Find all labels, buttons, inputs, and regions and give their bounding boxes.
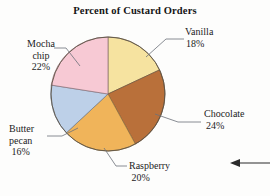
custard-orders-pie-figure: Percent of Custard Orders Vanilla 18% Ch… xyxy=(0,0,270,196)
pie-label-vanilla-percent: 18% xyxy=(185,38,213,50)
pie-label-raspberry-percent: 20% xyxy=(129,172,170,184)
leader-line-chocolate xyxy=(155,114,201,122)
pie-label-mocha-chip-name-line1: Mocha xyxy=(27,38,55,49)
pie-label-vanilla: Vanilla 18% xyxy=(185,26,213,49)
leader-line-vanilla xyxy=(146,39,184,57)
pie-label-mocha-chip-percent: 22% xyxy=(17,61,65,73)
pie-label-butter-pecan-name-line2: pecan xyxy=(9,135,44,147)
pie-label-chocolate-name: Chocolate xyxy=(204,108,245,119)
pie-label-butter-pecan: Butter pecan 16% xyxy=(9,123,44,158)
pie-label-raspberry: Raspberry 20% xyxy=(129,160,170,183)
pie-label-butter-pecan-percent: 16% xyxy=(9,146,44,158)
pie-label-mocha-chip: Mocha chip 22% xyxy=(17,38,65,73)
pie-label-vanilla-name: Vanilla xyxy=(185,26,213,37)
pie-label-butter-pecan-name-line1: Butter xyxy=(9,123,34,134)
left-pointing-arrow xyxy=(230,159,270,167)
pie-label-chocolate-percent: 24% xyxy=(204,120,245,132)
pie-label-raspberry-name: Raspberry xyxy=(129,160,170,171)
pie-label-mocha-chip-name-line2: chip xyxy=(17,50,65,62)
pie-label-chocolate: Chocolate 24% xyxy=(204,108,245,131)
